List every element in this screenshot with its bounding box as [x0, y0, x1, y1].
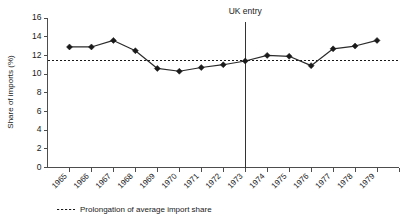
x-tick-label: 1977 — [314, 171, 333, 190]
y-tick-label: 8 — [37, 87, 42, 97]
event-marker-group: UK entry — [229, 6, 263, 168]
data-point-marker — [66, 44, 72, 50]
data-point-marker — [352, 43, 358, 49]
x-tick-label: 1971 — [182, 171, 201, 190]
x-axis-group: 1965196619671968196919701971197219731974… — [48, 168, 400, 191]
x-tick-label: 1976 — [292, 171, 311, 190]
x-tick-label: 1975 — [270, 171, 289, 190]
x-tick-label: 1968 — [116, 171, 135, 190]
y-tick-label: 16 — [32, 12, 42, 22]
x-tick-label: 1967 — [94, 171, 113, 190]
data-point-marker — [264, 52, 270, 58]
data-point-marker — [220, 62, 226, 68]
data-point-marker — [88, 44, 94, 50]
x-tick-label: 1974 — [248, 171, 267, 190]
y-tick-label: 0 — [37, 162, 42, 172]
uk-entry-label: UK entry — [229, 6, 263, 16]
data-point-marker — [198, 65, 204, 71]
x-tick-label: 1966 — [72, 171, 91, 190]
chart-container: 0246810121416 Share of imports (%) 19651… — [0, 0, 416, 224]
x-tick-label: 1978 — [336, 171, 355, 190]
x-tick-label: 1969 — [138, 171, 157, 190]
y-tick-label: 14 — [32, 31, 42, 41]
data-point-group — [66, 37, 380, 74]
y-axis-group: 0246810121416 Share of imports (%) — [6, 12, 48, 172]
data-point-marker — [374, 37, 380, 43]
x-tick-label: 1979 — [357, 171, 376, 190]
x-tick-label: 1973 — [226, 171, 245, 190]
y-tick-label: 4 — [37, 124, 42, 134]
data-series-group — [66, 37, 380, 74]
y-tick-label: 12 — [32, 50, 42, 60]
data-point-marker — [242, 58, 248, 64]
data-point-marker — [110, 37, 116, 43]
x-tick-group — [69, 168, 399, 172]
data-point-marker — [176, 68, 182, 74]
y-axis-title: Share of imports (%) — [6, 55, 15, 129]
x-tick-label: 1972 — [204, 171, 223, 190]
y-tick-label: 10 — [32, 68, 42, 78]
x-tick-label: 1970 — [160, 171, 179, 190]
legend-entry-label: Prolongation of average import share — [80, 205, 212, 214]
y-tick-label: 6 — [37, 106, 42, 116]
line-chart: 0246810121416 Share of imports (%) 19651… — [0, 0, 416, 224]
y-tick-label: 2 — [37, 143, 42, 153]
legend: Prolongation of average import share — [57, 205, 212, 214]
x-tick-label: 1965 — [50, 171, 69, 190]
data-point-marker — [286, 53, 292, 59]
x-tick-label-group: 1965196619671968196919701971197219731974… — [50, 171, 377, 190]
y-tick-group: 0246810121416 — [32, 12, 47, 172]
